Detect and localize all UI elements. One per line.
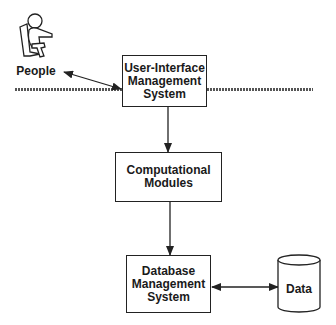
uims-label-line-2: Management [124, 75, 205, 88]
uims-box: User-Interface Management System [122, 55, 207, 107]
people-label: People [14, 64, 58, 78]
edge-people-uims [64, 72, 121, 89]
dbms-box: Database Management System [126, 255, 211, 313]
computational-modules-box: Computational Modules [115, 152, 222, 202]
dbms-label-line-2: Management [132, 278, 205, 291]
uims-label-line-1: User-Interface [124, 62, 205, 75]
dbms-label-line-1: Database [132, 265, 205, 278]
uims-label-line-3: System [124, 88, 205, 101]
computational-label-line-2: Modules [127, 177, 211, 190]
dbms-label-line-3: System [132, 291, 205, 304]
data-label: Data [280, 282, 318, 296]
person-in-chair-icon [20, 14, 52, 57]
